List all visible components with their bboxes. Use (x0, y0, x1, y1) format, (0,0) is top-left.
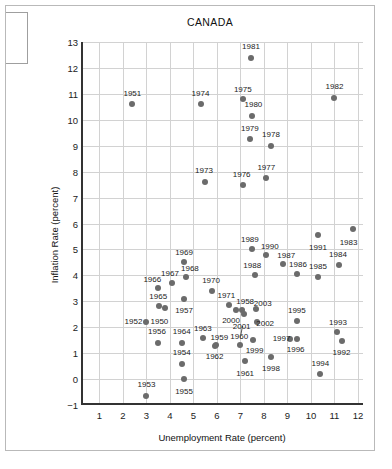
y-gridline (83, 275, 363, 276)
data-point-label-1954: 1954 (173, 347, 191, 356)
data-point-label-1989: 1989 (241, 234, 259, 243)
data-point-label-1998: 1998 (262, 364, 280, 373)
data-point-1979[interactable] (247, 136, 253, 142)
corner-box (6, 12, 28, 64)
data-point-1956[interactable] (155, 340, 161, 346)
data-point-1961[interactable] (242, 358, 248, 364)
data-point-1986[interactable] (294, 271, 300, 277)
data-point-1984[interactable] (336, 262, 342, 268)
x-gridline (311, 42, 312, 403)
data-point-1978[interactable] (268, 143, 274, 149)
data-point-1992[interactable] (339, 338, 345, 344)
data-point-label-1952: 1952 (125, 316, 143, 325)
data-point-1995[interactable] (294, 318, 300, 324)
y-tick-label-10: 10 (67, 114, 78, 125)
x-axis-label: Unemployment Rate (percent) (81, 432, 363, 443)
data-point-label-1971: 1971 (217, 290, 235, 299)
data-point-label-1970: 1970 (202, 276, 220, 285)
data-point-1969[interactable] (181, 259, 187, 265)
data-point-label-1982: 1982 (326, 82, 344, 91)
data-point-1998[interactable] (268, 354, 274, 360)
x-tick-label-7: 7 (238, 410, 243, 421)
data-point-label-1950: 1950 (150, 316, 168, 325)
data-point-1989[interactable] (249, 246, 255, 252)
data-point-1994[interactable] (317, 371, 323, 377)
data-point-1967[interactable] (169, 280, 175, 286)
data-point-1952[interactable] (143, 319, 149, 325)
data-point-label-1967: 1967 (161, 268, 179, 277)
data-point-label-1976: 1976 (233, 169, 251, 178)
data-point-label-1995: 1995 (288, 305, 306, 314)
data-point-1965[interactable] (156, 303, 162, 309)
x-tick-label-6: 6 (214, 410, 219, 421)
data-point-1970[interactable] (209, 288, 215, 294)
data-point-label-1953: 1953 (138, 380, 156, 389)
y-gridline (83, 68, 363, 69)
x-gridline (217, 42, 218, 403)
data-point-1951[interactable] (129, 101, 135, 107)
data-point-label-1965: 1965 (149, 292, 167, 301)
x-tick-label-10: 10 (306, 410, 317, 421)
data-point-1976[interactable] (240, 182, 246, 188)
data-point-1953[interactable] (143, 393, 149, 399)
data-point-1964[interactable] (179, 340, 185, 346)
data-point-1960[interactable] (237, 342, 243, 348)
data-point-label-1966: 1966 (143, 275, 161, 284)
data-point-label-1963: 1963 (194, 323, 212, 332)
y-tick-label-8: 8 (73, 166, 78, 177)
data-point-1985[interactable] (315, 274, 321, 280)
y-tick-label-1: 1 (73, 348, 78, 359)
data-point-1988[interactable] (252, 272, 258, 278)
y-gridline (83, 301, 363, 302)
data-point-1966[interactable] (155, 285, 161, 291)
data-point-1973[interactable] (202, 179, 208, 185)
y-gridline (83, 224, 363, 225)
x-gridline (99, 42, 100, 403)
data-point-2001[interactable] (241, 311, 247, 317)
data-point-1963[interactable] (200, 335, 206, 341)
y-gridline (83, 146, 363, 147)
data-point-1999[interactable] (250, 337, 256, 343)
data-point-label-1957: 1957 (175, 306, 193, 315)
data-point-label-1978: 1978 (262, 130, 280, 139)
data-point-1968[interactable] (183, 274, 189, 280)
data-point-2000[interactable] (233, 307, 239, 313)
data-point-label-1991: 1991 (309, 242, 327, 251)
data-point-label-1956: 1956 (148, 327, 166, 336)
data-point-1954[interactable] (179, 361, 185, 367)
data-point-label-1964: 1964 (173, 327, 191, 336)
data-point-1977[interactable] (263, 175, 269, 181)
data-point-label-1990: 1990 (261, 241, 279, 250)
data-point-1971[interactable] (226, 302, 232, 308)
data-point-label-1959: 1959 (210, 333, 228, 342)
data-point-1991[interactable] (315, 232, 321, 238)
data-point-1990[interactable] (263, 252, 269, 258)
data-point-label-1994: 1994 (311, 358, 329, 367)
data-point-1981[interactable] (248, 55, 254, 61)
y-tick-label-7: 7 (73, 192, 78, 203)
x-tick-label-12: 12 (353, 410, 364, 421)
data-point-1996[interactable] (294, 336, 300, 342)
data-point-1987[interactable] (280, 261, 286, 267)
x-gridline (264, 42, 265, 403)
data-point-label-1973: 1973 (195, 166, 213, 175)
x-tick-label-3: 3 (144, 410, 149, 421)
data-point-label-1955: 1955 (175, 386, 193, 395)
data-point-label-1980: 1980 (244, 100, 262, 109)
data-point-label-2002: 2002 (256, 318, 274, 327)
y-tick-label-4: 4 (73, 270, 78, 281)
data-point-1962[interactable] (212, 343, 218, 349)
data-point-1982[interactable] (331, 95, 337, 101)
y-tick-label-9: 9 (73, 140, 78, 151)
data-point-1983[interactable] (350, 226, 356, 232)
data-point-1950[interactable] (162, 305, 168, 311)
data-point-1993[interactable] (334, 329, 340, 335)
x-gridline (170, 42, 171, 403)
data-point-label-1997: 1997 (273, 333, 291, 342)
data-point-1980[interactable] (249, 113, 255, 119)
data-point-1955[interactable] (181, 376, 187, 382)
data-point-1974[interactable] (198, 101, 204, 107)
y-gridline (83, 42, 363, 43)
data-point-1957[interactable] (181, 296, 187, 302)
data-point-label-1961: 1961 (236, 368, 254, 377)
